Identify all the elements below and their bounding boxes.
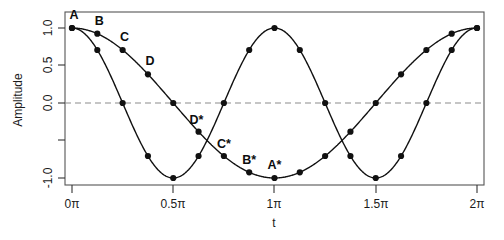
y-tick-label-05: 0.5	[41, 56, 55, 73]
point-label-C: C	[120, 30, 129, 44]
data-point	[145, 153, 151, 159]
data-point	[474, 25, 480, 31]
data-point	[347, 129, 353, 135]
y-tick-label-neg1: -1.0	[41, 167, 55, 188]
data-point	[373, 175, 379, 181]
data-point	[297, 169, 303, 175]
data-point	[170, 175, 176, 181]
data-point	[423, 47, 429, 53]
data-point	[170, 100, 176, 106]
data-point	[246, 169, 252, 175]
data-point	[120, 100, 126, 106]
data-point	[373, 100, 379, 106]
data-point	[423, 100, 429, 106]
data-point	[322, 100, 328, 106]
data-point	[271, 25, 277, 31]
point-label-D-star: D*	[190, 113, 204, 127]
point-label-A-star: A*	[268, 158, 282, 172]
data-point	[94, 31, 100, 37]
data-point	[398, 71, 404, 77]
data-point	[221, 153, 227, 159]
x-tick-label-05pi: 0.5π	[161, 197, 186, 211]
data-point	[195, 129, 201, 135]
data-point	[120, 47, 126, 53]
y-axis-title: Amplitude	[11, 73, 25, 127]
data-point	[347, 153, 353, 159]
x-tick-label-2pi: 2π	[470, 197, 485, 211]
point-label-B-star: B*	[242, 153, 256, 167]
data-point	[195, 153, 201, 159]
data-point	[449, 47, 455, 53]
data-point	[398, 153, 404, 159]
point-label-C-star: C*	[217, 137, 231, 151]
point-label-A: A	[69, 8, 78, 22]
point-label-B: B	[95, 14, 104, 28]
data-point	[69, 25, 75, 31]
y-tick-label-00: 0.0	[41, 94, 55, 111]
data-point	[322, 153, 328, 159]
data-point	[94, 47, 100, 53]
data-point	[145, 71, 151, 77]
data-point	[221, 100, 227, 106]
point-label-D: D	[145, 54, 154, 68]
amplitude-cosine-chart: 1.0 0.5 0.0 -1.0 Amplitude 0π 0.5π 1π 1.…	[0, 0, 504, 240]
y-tick-label-1: 1.0	[41, 19, 55, 36]
x-tick-label-1pi: 1π	[267, 197, 282, 211]
x-tick-label-0pi: 0π	[65, 197, 80, 211]
data-point	[246, 47, 252, 53]
x-tick-label-15pi: 1.5π	[364, 197, 389, 211]
data-point	[271, 175, 277, 181]
data-point	[297, 47, 303, 53]
data-point	[449, 31, 455, 37]
